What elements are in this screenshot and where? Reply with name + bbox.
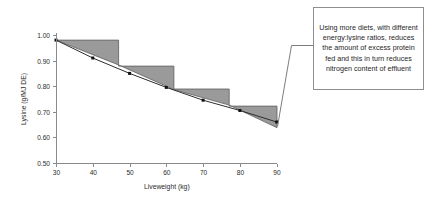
y-tick-label-0.90: 0.90 [37,58,50,65]
step-region-3 [174,89,229,105]
y-axis-title: Lysine (g/MJ DE) [20,73,28,125]
x-tick-label-50: 50 [126,169,134,176]
step-region-2 [119,65,174,90]
x-tick-label-70: 70 [200,169,208,176]
callout-leader-line [278,46,314,127]
callout-text: Using more diets, with different energy:… [319,23,418,74]
data-point-80 [238,109,241,112]
x-tick-label-30: 30 [53,169,61,176]
x-tick-label-80: 80 [237,169,245,176]
step-region-1 [56,40,119,65]
data-point-60 [165,86,168,89]
y-tick-label-0.50: 0.50 [37,160,50,167]
y-tick-label-0.60: 0.60 [37,134,50,141]
step-diet-regions [56,40,277,128]
x-axis-title: Liveweight (kg) [144,183,190,191]
x-tick-label-60: 60 [163,169,171,176]
data-point-50 [128,72,131,75]
x-axis-ticks [57,164,278,168]
y-axis-ticks [53,36,57,164]
figure-root: 1.00 0.90 0.80 0.70 0.60 0.50 30 40 50 6… [0,0,431,205]
y-tick-label-1.00: 1.00 [37,32,50,39]
y-axis-tick-labels: 1.00 0.90 0.80 0.70 0.60 0.50 [37,32,50,167]
step-region-4 [229,105,277,128]
y-tick-label-0.70: 0.70 [37,109,50,116]
x-axis-tick-labels: 30 40 50 60 70 80 90 [53,169,281,176]
data-point-40 [91,57,94,60]
y-tick-label-0.80: 0.80 [37,83,50,90]
x-tick-label-40: 40 [90,169,98,176]
callout-box: Using more diets, with different energy:… [313,7,424,90]
data-point-70 [202,99,205,102]
x-tick-label-90: 90 [273,169,281,176]
